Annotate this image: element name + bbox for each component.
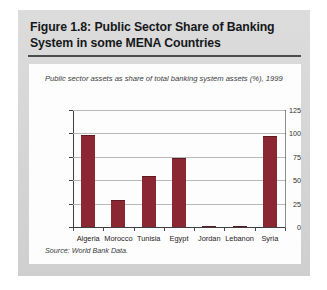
figure-box: Figure 1.8: Public Sector Share of Banki… — [18, 10, 310, 276]
chart-subtitle: Public sector assets as share of total b… — [45, 74, 283, 84]
x-tick-label-tunisia: Tunisia — [137, 234, 161, 243]
bar-egypt — [172, 158, 186, 227]
bar-algeria — [81, 135, 95, 227]
plot-area — [73, 110, 285, 227]
chart-panel: Public sector assets as share of total b… — [29, 64, 301, 264]
chart-source: Source: World Bank Data. — [45, 246, 128, 255]
x-tick-label-morocco: Morocco — [104, 234, 132, 243]
bar-syria — [263, 136, 277, 227]
right-axis-line — [285, 110, 286, 228]
gridline — [73, 227, 285, 228]
gridline — [73, 110, 285, 111]
x-tick-mark — [224, 228, 225, 231]
x-tick-label-jordan: Jordan — [198, 234, 221, 243]
bar-tunisia — [142, 176, 156, 227]
bar-lebanon — [233, 226, 247, 227]
x-tick-label-egypt: Egypt — [170, 234, 189, 243]
figure-title: Figure 1.8: Public Sector Share of Banki… — [30, 20, 302, 51]
x-tick-mark — [73, 228, 74, 231]
x-tick-mark — [194, 228, 195, 231]
x-tick-label-lebanon: Lebanon — [225, 234, 254, 243]
x-tick-mark — [285, 228, 286, 231]
bar-jordan — [202, 226, 216, 227]
x-tick-label-algeria: Algeria — [77, 234, 100, 243]
x-tick-mark — [103, 228, 104, 231]
bar-morocco — [111, 200, 125, 227]
x-tick-mark — [255, 228, 256, 231]
x-tick-mark — [164, 228, 165, 231]
x-tick-mark — [134, 228, 135, 231]
title-divider — [28, 55, 301, 57]
x-tick-label-syria: Syria — [261, 234, 278, 243]
gridline — [73, 133, 285, 134]
